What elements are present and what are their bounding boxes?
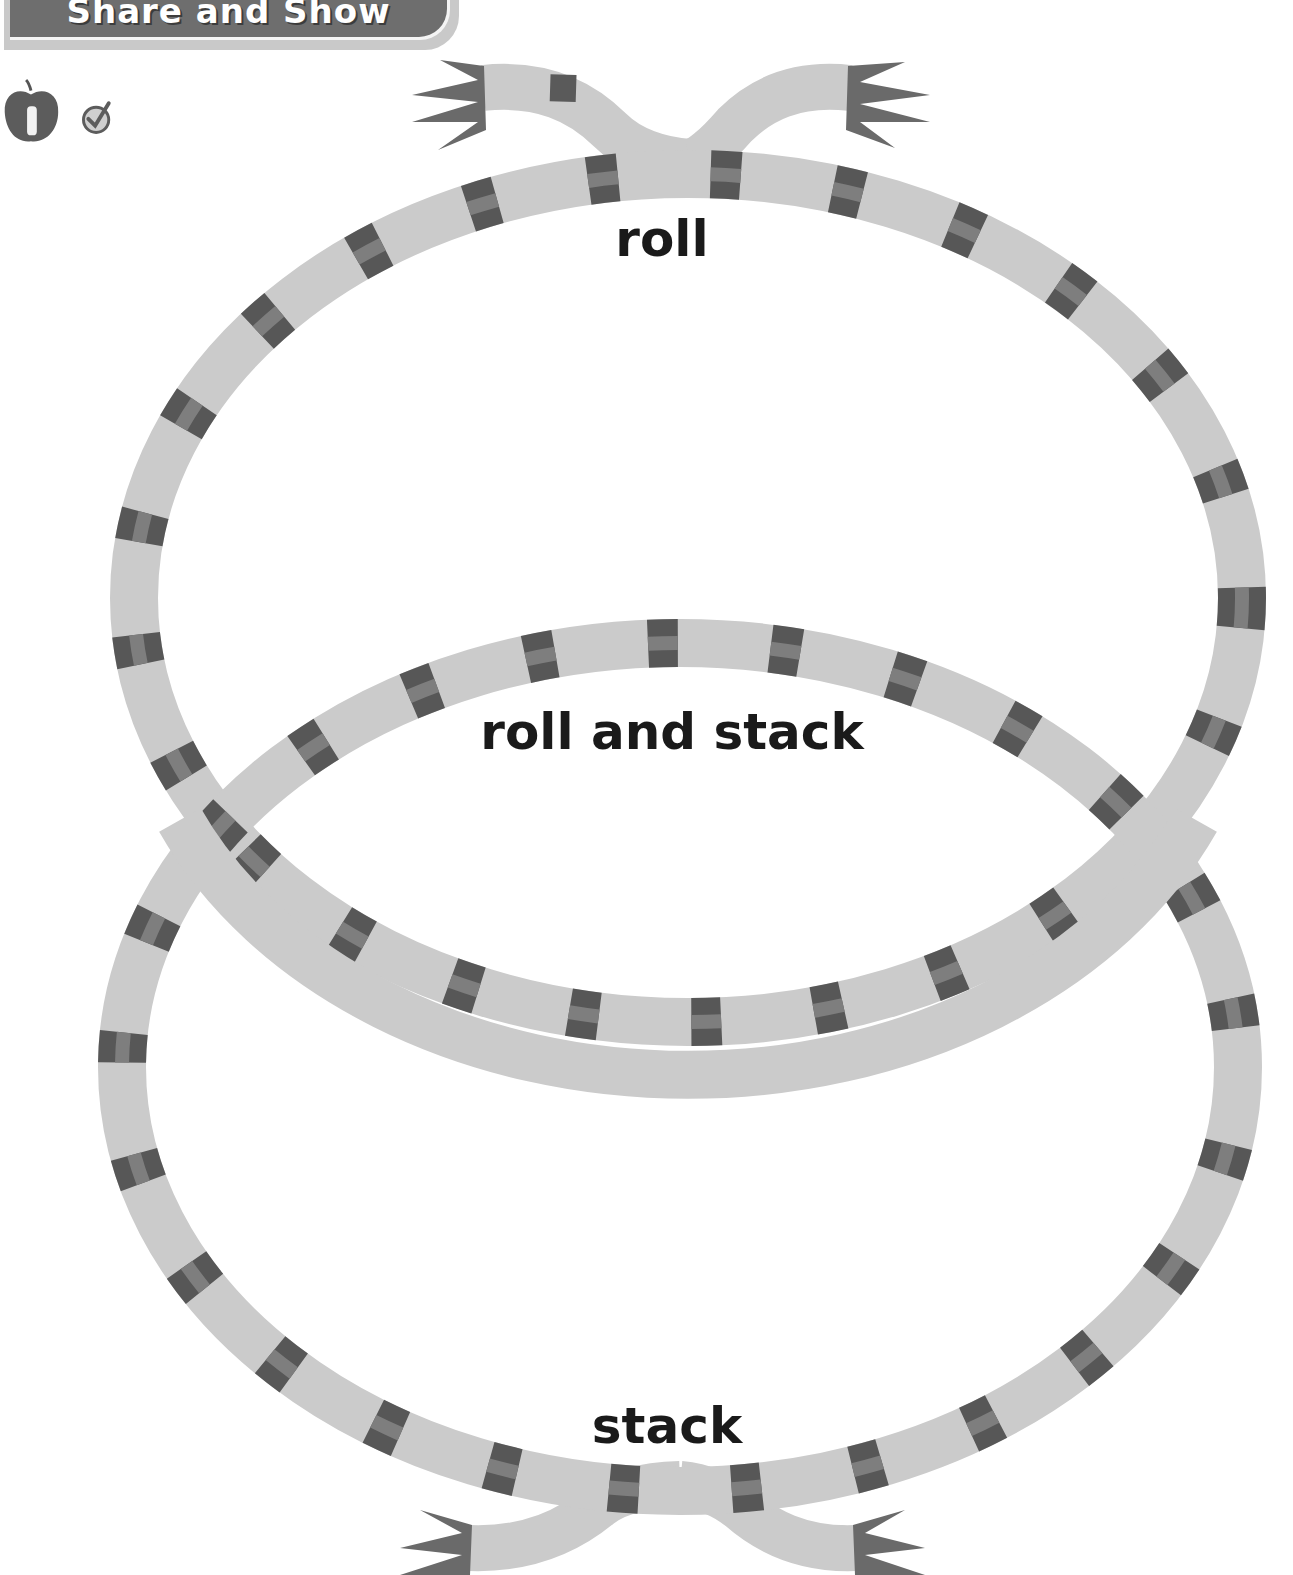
top-tail-right xyxy=(690,62,930,162)
top-tail-left xyxy=(412,60,690,162)
label-stack: stack xyxy=(592,1397,742,1455)
roll-ring xyxy=(134,174,1242,1022)
label-roll-and-stack: roll and stack xyxy=(480,703,864,761)
label-roll: roll xyxy=(615,210,708,268)
